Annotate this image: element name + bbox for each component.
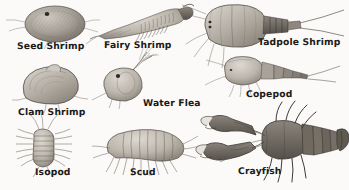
label-water-flea: Water Flea bbox=[143, 99, 201, 108]
label-scud: Scud bbox=[130, 168, 156, 177]
crustacean-artwork bbox=[0, 0, 349, 190]
label-clam-shrimp: Clam Shrimp bbox=[18, 108, 86, 117]
illustration-plate: Seed Shrimp Fairy Shrimp Tadpole Shrimp … bbox=[0, 0, 349, 190]
label-tadpole-shrimp: Tadpole Shrimp bbox=[258, 38, 340, 47]
label-copepod: Copepod bbox=[246, 90, 292, 99]
label-crayfish: Crayfish bbox=[238, 167, 282, 176]
label-seed-shrimp: Seed Shrimp bbox=[17, 42, 85, 51]
label-fairy-shrimp: Fairy Shrimp bbox=[104, 41, 172, 50]
label-isopod: Isopod bbox=[35, 168, 71, 177]
fairy-shrimp-figure bbox=[86, 4, 194, 44]
